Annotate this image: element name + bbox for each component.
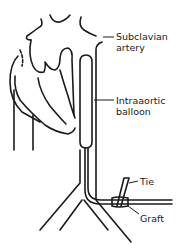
arch-branch-left [27, 19, 43, 40]
leader-tie [129, 181, 138, 183]
catheter [85, 148, 172, 204]
catheter-inner [88, 148, 172, 200]
leader-graft [128, 206, 139, 214]
subclavian-label-line1: Subclavian [116, 31, 168, 42]
subclavian-artery-label: Subclavian artery [116, 31, 168, 53]
intraaortic-balloon [80, 55, 92, 148]
arch-branch-middle [50, 15, 70, 22]
subclavian-label-line2: artery [116, 42, 168, 53]
arch-branch-right [80, 17, 96, 36]
balloon-label-line1: Intraaortic [116, 95, 165, 106]
ventricle-septum [38, 78, 66, 124]
descending-aorta-right-wall [96, 42, 131, 242]
tie-label: Tie [140, 176, 154, 187]
iliac-bifurcation [60, 200, 82, 230]
descending-aorta-left-wall [40, 150, 80, 230]
intraaortic-balloon-label: Intraaortic balloon [116, 95, 165, 117]
heart-outer [30, 40, 74, 115]
graft-label: Graft [140, 213, 164, 224]
balloon-label-line2: balloon [116, 106, 165, 117]
graft [112, 197, 128, 207]
heart-left-wall-dashed [20, 50, 23, 66]
heart-inner-wall [15, 76, 75, 134]
